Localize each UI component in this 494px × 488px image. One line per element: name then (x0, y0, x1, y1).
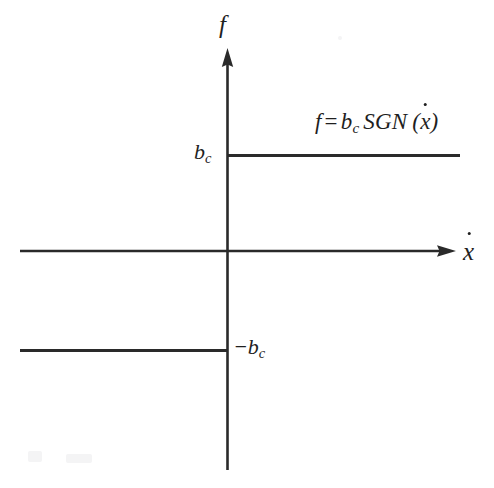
tick-label-positive: bc (194, 141, 211, 166)
tick-label-negative: −bc (233, 336, 265, 361)
equation-close-paren: ) (431, 109, 439, 134)
equation-operator: = (322, 109, 341, 134)
friction-diagram-figure: f x bc −bc f=bcSGN(x) (0, 0, 494, 488)
dot-accent-icon (467, 232, 470, 235)
tick-label-positive-base: b (194, 139, 205, 164)
x-axis (20, 245, 456, 257)
equation-function: SGN (359, 109, 407, 134)
diagram-canvas (0, 0, 494, 488)
y-axis-arrowhead (222, 48, 233, 67)
equation-annotation: f=bcSGN(x) (315, 110, 438, 135)
equation-lhs: f (315, 109, 322, 134)
dot-accent-icon (424, 103, 427, 106)
x-axis-label-letter: x (463, 238, 474, 265)
equation-argument: x (420, 109, 430, 134)
x-axis-label: x (463, 239, 474, 264)
tick-label-negative-subscript: c (259, 345, 265, 361)
equation-open-paren: ( (407, 109, 420, 134)
y-axis-label: f (219, 12, 226, 37)
x-axis-arrowhead (437, 245, 456, 257)
tick-label-positive-subscript: c (205, 150, 211, 166)
equation-coefficient: b (341, 109, 353, 134)
y-axis (222, 48, 233, 470)
tick-label-negative-base: −b (233, 334, 259, 359)
